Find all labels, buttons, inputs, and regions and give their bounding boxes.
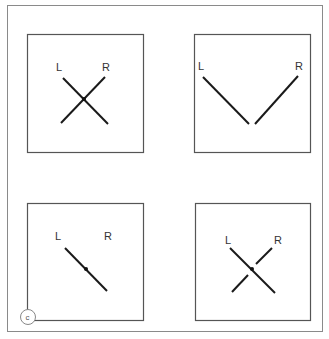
left-label: L: [225, 234, 231, 246]
fixation-point: [250, 267, 254, 271]
panel-box: [195, 35, 311, 153]
right-label: R: [295, 60, 303, 72]
right-line-lower-segment: [232, 275, 248, 292]
right-line-upper-segment: [256, 248, 272, 264]
left-label: L: [198, 60, 204, 72]
panel-bottom-right: L R: [196, 204, 311, 321]
fixation-point: [84, 267, 88, 271]
fixation-point: [82, 97, 86, 101]
panel-box: [196, 204, 311, 321]
panel-bottom-left: L R c: [21, 204, 144, 325]
panel-top-left: L R: [28, 35, 144, 153]
right-label: R: [102, 61, 110, 73]
left-line: [63, 78, 108, 124]
panel-box: [28, 204, 144, 321]
right-label: R: [104, 230, 112, 242]
panel-top-right: L R: [195, 35, 311, 153]
left-label: L: [56, 61, 62, 73]
left-label: L: [55, 230, 61, 242]
panel-badge-label: c: [26, 313, 30, 322]
right-label: R: [274, 234, 282, 246]
panel-box: [28, 35, 144, 153]
diagram-canvas: L R L R L R c L R: [0, 0, 329, 339]
outer-frame: [8, 6, 323, 332]
left-line: [203, 77, 249, 124]
right-line: [255, 76, 298, 124]
